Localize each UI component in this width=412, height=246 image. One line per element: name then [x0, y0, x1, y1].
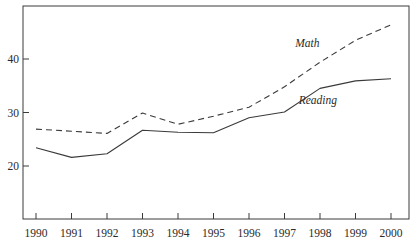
x-tick-label: 1994 [167, 227, 190, 239]
y-tick-label: 20 [8, 160, 20, 172]
y-axis: 203040 [8, 53, 30, 172]
x-tick-label: 1998 [309, 227, 332, 239]
x-tick-label: 1999 [344, 227, 367, 239]
x-tick-label: 1990 [25, 227, 48, 239]
series-line-math [36, 25, 391, 134]
x-tick-label: 1993 [131, 227, 154, 239]
x-tick-label: 1995 [202, 227, 225, 239]
line-chart: 203040 199019911992199319941995199619971… [0, 0, 412, 246]
series-label-math: Math [294, 37, 320, 49]
x-tick-label: 1997 [273, 227, 296, 239]
y-tick-label: 30 [8, 107, 20, 119]
series-line-reading [36, 79, 391, 158]
x-tick-label: 1996 [238, 227, 261, 239]
series-lines [36, 25, 391, 158]
series-label-reading: Reading [298, 94, 338, 107]
x-tick-label: 2000 [380, 227, 403, 239]
series-labels: MathReading [294, 37, 337, 107]
y-tick-label: 40 [8, 53, 20, 65]
x-tick-label: 1991 [60, 227, 83, 239]
x-tick-label: 1992 [96, 227, 119, 239]
plot-frame [23, 6, 409, 219]
x-axis: 1990199119921993199419951996199719981999… [25, 213, 403, 239]
